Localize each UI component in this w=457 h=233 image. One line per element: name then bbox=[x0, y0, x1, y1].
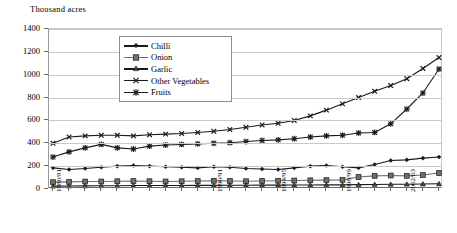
series-chilli bbox=[51, 155, 442, 172]
plot-area bbox=[48, 28, 442, 188]
x-tick-mark bbox=[358, 188, 359, 191]
legend-item-other-vegetables: Other Vegetables bbox=[123, 75, 227, 87]
x-tick-mark bbox=[406, 188, 407, 191]
series-layer bbox=[49, 29, 443, 189]
series-fruits bbox=[50, 66, 442, 160]
x-tick-mark bbox=[132, 188, 133, 191]
gridline bbox=[49, 166, 441, 167]
legend-label: Fruits bbox=[149, 87, 171, 97]
gridline bbox=[49, 75, 441, 76]
x-tick-mark bbox=[422, 188, 423, 191]
y-tick-mark bbox=[44, 188, 48, 189]
legend-key-diamond-icon bbox=[123, 40, 149, 51]
x-tick-mark bbox=[245, 188, 246, 191]
legend-label: Garlic bbox=[149, 64, 172, 74]
y-tick-label: 1200 bbox=[14, 46, 40, 56]
x-tick-mark bbox=[116, 188, 117, 191]
x-tick-label: 2002/03 bbox=[409, 169, 417, 192]
legend-item-chilli: Chilli bbox=[123, 40, 227, 52]
gridline bbox=[49, 143, 441, 144]
gridline bbox=[49, 98, 441, 99]
x-tick-mark bbox=[390, 188, 391, 191]
x-tick-mark bbox=[438, 188, 439, 191]
x-tick-mark bbox=[261, 188, 262, 191]
gridline bbox=[49, 52, 441, 53]
legend-label: Other Vegetables bbox=[149, 76, 209, 86]
y-tick-label: 800 bbox=[14, 92, 40, 102]
chart-legend: ChilliOnionGarlicOther VegetablesFruits bbox=[119, 36, 232, 102]
series-other-vegetables bbox=[51, 55, 442, 145]
x-tick-mark bbox=[374, 188, 375, 191]
legend-item-fruits: Fruits bbox=[123, 86, 227, 98]
x-tick-mark bbox=[181, 188, 182, 191]
x-tick-mark bbox=[342, 188, 343, 191]
y-tick-label: 0 bbox=[14, 183, 40, 193]
legend-label: Onion bbox=[149, 52, 172, 62]
x-tick-mark bbox=[277, 188, 278, 191]
acreage-line-chart: Thousand acres 0200400600800100012001400… bbox=[0, 0, 457, 233]
x-tick-mark bbox=[229, 188, 230, 191]
x-tick-label: 1994/95 bbox=[280, 169, 288, 192]
x-tick-mark bbox=[309, 188, 310, 191]
x-tick-mark bbox=[52, 188, 53, 191]
x-tick-mark bbox=[149, 188, 150, 191]
x-tick-mark bbox=[84, 188, 85, 191]
x-tick-mark bbox=[100, 188, 101, 191]
legend-item-onion: Onion bbox=[123, 52, 227, 64]
y-tick-label: 200 bbox=[14, 160, 40, 170]
legend-label: Chilli bbox=[149, 41, 170, 51]
x-tick-mark bbox=[197, 188, 198, 191]
x-tick-mark bbox=[165, 188, 166, 191]
y-tick-label: 1400 bbox=[14, 23, 40, 33]
x-tick-mark bbox=[68, 188, 69, 191]
gridline bbox=[49, 29, 441, 30]
legend-key-cross-icon bbox=[123, 75, 149, 86]
y-tick-label: 400 bbox=[14, 137, 40, 147]
y-tick-label: 600 bbox=[14, 114, 40, 124]
y-tick-label: 1000 bbox=[14, 69, 40, 79]
legend-key-asterisk-icon bbox=[123, 87, 149, 98]
legend-item-garlic: Garlic bbox=[123, 63, 227, 75]
legend-key-square-icon bbox=[123, 52, 149, 63]
x-tick-mark bbox=[325, 188, 326, 191]
x-tick-label: 1990/91 bbox=[216, 169, 224, 192]
x-tick-mark bbox=[293, 188, 294, 191]
x-tick-label: 1998/99 bbox=[345, 169, 353, 192]
legend-key-triangle-icon bbox=[123, 63, 149, 74]
gridline bbox=[49, 120, 441, 121]
x-tick-mark bbox=[213, 188, 214, 191]
x-tick-label: 1980/81 bbox=[55, 169, 63, 192]
